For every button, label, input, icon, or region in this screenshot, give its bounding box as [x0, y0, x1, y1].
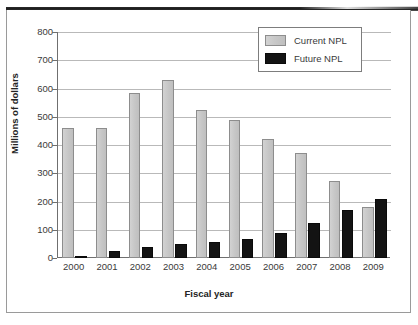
- bar-group: [58, 32, 91, 258]
- legend-swatch-current-npl: [265, 35, 286, 46]
- bar-future-npl-2003: [175, 244, 187, 258]
- bar-group: [91, 32, 124, 258]
- bar-future-npl-2009: [375, 199, 387, 258]
- y-axis-tick-mark: [52, 258, 57, 259]
- bar-future-npl-2006: [275, 233, 287, 258]
- x-axis-tick: 2004: [190, 262, 223, 272]
- y-axis-tick: 500: [13, 112, 53, 122]
- bar-current-npl-2009: [362, 207, 374, 258]
- bar-group: [158, 32, 191, 258]
- bar-group: [191, 32, 224, 258]
- y-axis-tick: 100: [13, 225, 53, 235]
- bar-current-npl-2008: [329, 181, 341, 258]
- bar-future-npl-2001: [109, 251, 121, 258]
- bar-future-npl-2000: [75, 256, 87, 258]
- x-axis-tick: 2002: [124, 262, 157, 272]
- x-axis-tick: 2009: [357, 262, 390, 272]
- legend-item-current-npl: Current NPL: [265, 34, 347, 47]
- y-axis-tick: 200: [13, 197, 53, 207]
- chart-figure: Millions of dollars 01002003004005006007…: [0, 0, 418, 325]
- bar-current-npl-2006: [262, 139, 274, 258]
- bar-future-npl-2002: [142, 247, 154, 258]
- bar-current-npl-2003: [162, 80, 174, 258]
- y-axis-tick: 700: [13, 55, 53, 65]
- y-axis-tick: 800: [13, 27, 53, 37]
- bar-future-npl-2004: [209, 242, 221, 258]
- bar-current-npl-2007: [295, 153, 307, 258]
- bar-current-npl-2004: [196, 110, 208, 258]
- bar-current-npl-2002: [129, 93, 141, 258]
- bar-current-npl-2000: [62, 128, 74, 259]
- legend-label-current-npl: Current NPL: [294, 35, 347, 46]
- bar-group: [358, 32, 391, 258]
- bar-future-npl-2005: [242, 239, 254, 258]
- bar-current-npl-2005: [229, 120, 241, 258]
- legend-item-future-npl: Future NPL: [265, 52, 343, 65]
- x-axis-tick: 2001: [90, 262, 123, 272]
- y-axis-tick: 0: [13, 253, 53, 263]
- legend-label-future-npl: Future NPL: [294, 53, 343, 64]
- bar-group: [125, 32, 158, 258]
- y-axis-tick: 300: [13, 168, 53, 178]
- x-axis-tick: 2000: [57, 262, 90, 272]
- x-axis-tick: 2008: [323, 262, 356, 272]
- bar-future-npl-2007: [308, 223, 320, 258]
- bar-current-npl-2001: [96, 128, 108, 258]
- x-axis-tick: 2005: [224, 262, 257, 272]
- x-axis-label: Fiscal year: [0, 288, 418, 299]
- bar-future-npl-2008: [342, 210, 354, 258]
- x-axis-tick: 2007: [290, 262, 323, 272]
- legend-swatch-future-npl: [265, 53, 286, 64]
- x-axis-tick: 2006: [257, 262, 290, 272]
- bar-group: [225, 32, 258, 258]
- x-axis-tick: 2003: [157, 262, 190, 272]
- y-axis-tick: 400: [13, 140, 53, 150]
- scan-artifact-fade: [300, 6, 418, 9]
- chart-legend: Current NPL Future NPL: [258, 27, 362, 72]
- y-axis-tick: 600: [13, 84, 53, 94]
